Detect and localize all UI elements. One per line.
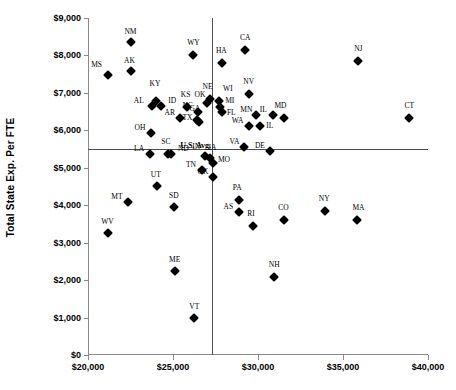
data-point-marker (103, 70, 113, 80)
data-point-label: MO (218, 155, 230, 164)
y-tick-label: $0 (71, 350, 81, 360)
data-point-label: WV (101, 217, 114, 226)
data-point-label: IL (266, 121, 273, 130)
y-tick-mark (84, 205, 89, 206)
y-tick-mark (84, 243, 89, 244)
data-point-label: CO (278, 203, 288, 212)
data-point-label: NV (243, 77, 254, 86)
data-point-label: SD (169, 191, 179, 200)
data-point-marker (279, 215, 289, 225)
data-point-label: AL (134, 96, 144, 105)
y-tick-mark (84, 168, 89, 169)
data-point-label: IA (209, 143, 217, 152)
data-point-marker (208, 172, 218, 182)
y-tick-label: $9,000 (53, 13, 81, 23)
x-tick-label: $35,000 (327, 362, 360, 372)
data-point-marker (234, 195, 244, 205)
data-point-label: PA (233, 183, 242, 192)
y-tick-label: $8,000 (53, 50, 81, 60)
data-point-marker (268, 110, 278, 120)
data-point-marker (145, 149, 155, 159)
data-point-label: ID (168, 96, 176, 105)
data-point-label: IN (192, 142, 200, 151)
data-point-marker (265, 146, 275, 156)
data-point-label: NH (269, 260, 280, 269)
data-point-marker (126, 66, 136, 76)
scatter-chart: Total State Exp. Per FTE $0$1,000$2,000$… (0, 0, 456, 390)
data-point-label: VA (229, 137, 239, 146)
y-tick-label: $7,000 (53, 88, 81, 98)
data-point-label: TN (186, 160, 196, 169)
x-tick-label: $20,000 (72, 362, 105, 372)
us-average-vertical-line (212, 18, 213, 355)
plot-area: $0$1,000$2,000$3,000$4,000$5,000$6,000$7… (88, 18, 428, 355)
y-tick-label: $2,000 (53, 275, 81, 285)
data-point-marker (146, 128, 156, 138)
data-point-marker (103, 228, 113, 238)
x-tick-label: $40,000 (412, 362, 445, 372)
x-tick-mark (88, 355, 89, 360)
x-tick-label: $30,000 (242, 362, 275, 372)
x-tick-label: $25,000 (157, 362, 190, 372)
data-point-marker (123, 197, 133, 207)
data-point-label: ND (178, 144, 189, 153)
x-tick-mark (258, 355, 259, 360)
data-point-marker (152, 181, 162, 191)
data-point-marker (126, 37, 136, 47)
data-point-label: KY (150, 79, 161, 88)
data-point-label: LA (134, 144, 144, 153)
data-point-label: MS (91, 60, 102, 69)
y-axis-title-text: Total State Exp. Per FTE (6, 118, 17, 238)
y-tick-mark (84, 318, 89, 319)
y-tick-label: $1,000 (53, 313, 81, 323)
data-point-label: RI (247, 209, 255, 218)
y-tick-mark (84, 93, 89, 94)
data-point-label: WA (232, 116, 244, 125)
y-tick-mark (84, 280, 89, 281)
data-point-label: OK (195, 90, 206, 99)
data-point-label: MD (274, 101, 286, 110)
data-point-marker (189, 313, 199, 323)
data-point-marker (320, 206, 330, 216)
data-point-label: NY (319, 194, 330, 203)
data-point-label: IL (260, 105, 267, 114)
y-axis-line (88, 18, 89, 355)
data-point-label: UT (151, 170, 161, 179)
y-axis-title: Total State Exp. Per FTE (2, 0, 20, 355)
data-point-marker (353, 56, 363, 66)
data-point-label: MI (225, 96, 234, 105)
y-tick-label: $5,000 (53, 163, 81, 173)
data-point-label: MT (111, 192, 122, 201)
data-point-marker (234, 207, 244, 217)
y-tick-label: $6,000 (53, 125, 81, 135)
data-point-label: MA (352, 203, 364, 212)
y-tick-mark (84, 18, 89, 19)
data-point-marker (169, 203, 179, 213)
data-point-marker (244, 121, 254, 131)
data-point-marker (244, 89, 254, 99)
data-point-label: CA (240, 33, 250, 42)
data-point-marker (239, 142, 249, 152)
data-point-marker (279, 113, 289, 123)
data-point-label: AR (165, 108, 175, 117)
data-point-label: AS (224, 202, 234, 211)
data-point-label: NE (203, 82, 213, 91)
data-point-marker (188, 50, 198, 60)
data-point-label: AK (124, 56, 135, 65)
data-point-marker (240, 45, 250, 55)
y-tick-mark (84, 130, 89, 131)
x-tick-mark (428, 355, 429, 360)
data-point-label: HA (216, 46, 227, 55)
data-point-marker (404, 113, 414, 123)
data-point-label: TX (183, 113, 193, 122)
data-point-label: WI (223, 84, 233, 93)
data-point-marker (255, 121, 265, 131)
data-point-marker (248, 221, 258, 231)
y-tick-label: $3,000 (53, 238, 81, 248)
data-point-label: MN (240, 105, 252, 114)
data-point-marker (352, 215, 362, 225)
data-point-label: SC (161, 137, 170, 146)
data-point-label: DE (255, 141, 265, 150)
x-tick-mark (343, 355, 344, 360)
data-point-marker (170, 266, 180, 276)
